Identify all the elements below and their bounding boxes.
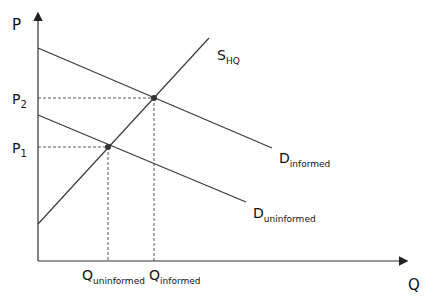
equilibrium-informed-point bbox=[151, 95, 157, 101]
supply-curve bbox=[38, 38, 209, 224]
supply-demand-diagram: P Q P2 P1 Quninformed Qinformed SHQ Dinf… bbox=[0, 0, 434, 297]
q-uninformed-label: Quninformed bbox=[82, 267, 145, 286]
demand-informed-label: Dinformed bbox=[279, 150, 330, 169]
p1-label: P1 bbox=[12, 140, 27, 159]
y-axis-label: P bbox=[12, 16, 21, 34]
q-informed-label: Qinformed bbox=[149, 267, 200, 286]
demand-uninformed-curve bbox=[38, 115, 246, 202]
demand-uninformed-label: Duninformed bbox=[253, 205, 316, 224]
p2-label: P2 bbox=[12, 91, 27, 110]
x-axis-label: Q bbox=[408, 276, 420, 294]
supply-label: SHQ bbox=[217, 47, 240, 66]
equilibrium-uninformed-point bbox=[105, 144, 111, 150]
